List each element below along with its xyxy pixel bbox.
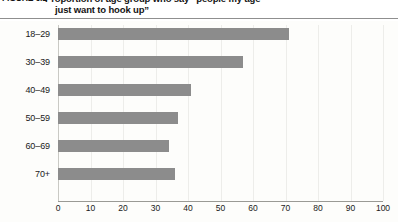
x-tick-50: 50 bbox=[216, 203, 225, 213]
figure-title-line-2: just want to hook up” bbox=[55, 4, 149, 15]
x-tick-0: 0 bbox=[56, 203, 61, 213]
bar-chart: 18–2930–3940–4950–5960–6970+ 01020304050… bbox=[0, 21, 398, 222]
chart-bars: 18–2930–3940–4950–5960–6970+ bbox=[0, 21, 398, 201]
x-tick-80: 80 bbox=[313, 203, 322, 213]
x-tick-40: 40 bbox=[183, 203, 192, 213]
category-label-30-39: 30–39 bbox=[0, 57, 50, 67]
bar-row: 40–49 bbox=[0, 82, 398, 110]
bar-30-39 bbox=[58, 56, 243, 68]
bar-row: 70+ bbox=[0, 166, 398, 194]
x-tick-10: 10 bbox=[86, 203, 95, 213]
chart-axis-baseline bbox=[58, 201, 383, 202]
category-label-40-49: 40–49 bbox=[0, 85, 50, 95]
bar-70+ bbox=[58, 168, 175, 180]
category-label-70+: 70+ bbox=[0, 169, 50, 179]
category-label-50-59: 50–59 bbox=[0, 113, 50, 123]
x-tick-90: 90 bbox=[346, 203, 355, 213]
bar-row: 30–39 bbox=[0, 54, 398, 82]
x-axis-tick-labels: 0102030405060708090100 bbox=[0, 203, 398, 219]
bar-50-59 bbox=[58, 112, 178, 124]
bar-row: 18–29 bbox=[0, 26, 398, 54]
x-tick-20: 20 bbox=[118, 203, 127, 213]
x-tick-70: 70 bbox=[281, 203, 290, 213]
figure-number-label: FIGURE 6.1 bbox=[2, 0, 47, 4]
x-tick-30: 30 bbox=[151, 203, 160, 213]
x-tick-60: 60 bbox=[248, 203, 257, 213]
category-label-60-69: 60–69 bbox=[0, 141, 50, 151]
x-tick-100: 100 bbox=[376, 203, 390, 213]
bar-40-49 bbox=[58, 84, 191, 96]
bar-18-29 bbox=[58, 28, 289, 40]
title-divider-rule bbox=[0, 18, 398, 19]
category-label-18-29: 18–29 bbox=[0, 29, 50, 39]
bar-row: 60–69 bbox=[0, 138, 398, 166]
bar-60-69 bbox=[58, 140, 169, 152]
figure-title-block: FIGURE 6.1 Proportion of age group who s… bbox=[0, 0, 398, 18]
bar-row: 50–59 bbox=[0, 110, 398, 138]
